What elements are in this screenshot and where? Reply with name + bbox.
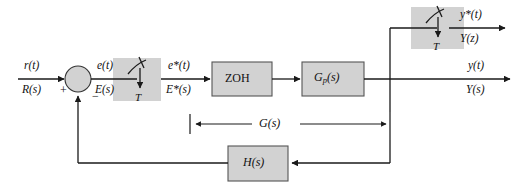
signal-label-sampled-error-transform: E*(s) [166,84,191,96]
signal-label-error-time: e(t) [97,60,113,72]
span-annotation-label: G(s) [259,117,280,129]
block-diagram-canvas: r(t) R(s) + − e(t) E(s) e*(t) E*(s) T T … [0,0,532,194]
sampler-input-period-label: T [135,92,141,103]
sampler-output-period-label: T [433,41,439,52]
diagram-svg [0,0,532,194]
plant-label-main: G [314,70,323,84]
signal-label-sampled-output-transform: Y(z) [460,33,479,45]
signal-label-sampled-output-time: y*(t) [460,9,482,21]
signal-label-output-time: y(t) [468,60,484,72]
plant-label-tail: (s) [327,70,340,84]
zoh-block-label: ZOH [225,72,250,84]
signal-label-sampled-error-time: e*(t) [168,60,190,72]
signal-label-input-time: r(t) [24,60,39,72]
signal-label-output-transform: Y(s) [466,84,485,96]
plant-block-label: Gp(s) [314,71,340,85]
signal-label-input-transform: R(s) [22,84,41,96]
summer-sign-positive: + [60,84,67,96]
feedback-block-label: H(s) [243,156,264,168]
summing-junction [65,66,91,92]
signal-label-error-transform: E(s) [95,84,114,96]
